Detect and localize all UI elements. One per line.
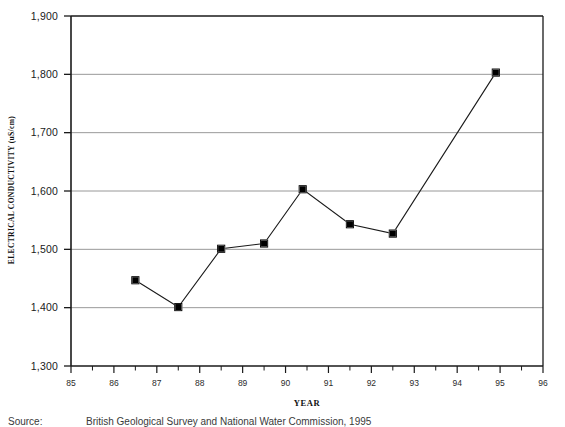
data-point-marker (492, 69, 499, 76)
y-tick-label: 1,700 (31, 126, 58, 138)
x-tick-label: 91 (324, 378, 334, 388)
x-tick-label: 86 (109, 378, 119, 388)
x-tick-label: 85 (66, 378, 76, 388)
chart-figure: 1,3001,4001,5001,6001,7001,8001,900 8586… (0, 0, 565, 427)
y-tick-label: 1,600 (31, 185, 58, 197)
x-axis-title: YEAR (294, 398, 321, 408)
data-point-marker (346, 221, 353, 228)
source-label: Source: (8, 416, 42, 427)
chart-background (0, 0, 565, 427)
x-tick-label: 87 (152, 378, 162, 388)
x-tick-label: 89 (238, 378, 248, 388)
line-chart: 1,3001,4001,5001,6001,7001,8001,900 8586… (0, 0, 565, 427)
y-axis-title: ELECTRICAL CONDUCTIVITY (uS/cm) (7, 116, 16, 264)
y-tick-label: 1,400 (31, 301, 58, 313)
x-tick-label: 93 (410, 378, 420, 388)
x-tick-label: 94 (452, 378, 462, 388)
y-tick-label: 1,300 (31, 360, 58, 372)
source-text: British Geological Survey and National W… (86, 416, 372, 427)
x-tick-label: 95 (495, 378, 505, 388)
data-point-marker (389, 230, 396, 237)
data-point-marker (299, 186, 306, 193)
x-tick-label: 92 (367, 378, 377, 388)
x-tick-label: 88 (195, 378, 205, 388)
x-tick-label: 96 (538, 378, 548, 388)
y-tick-label: 1,900 (31, 10, 58, 22)
x-tick-label: 90 (281, 378, 291, 388)
data-point-marker (218, 245, 225, 252)
data-point-marker (175, 303, 182, 310)
data-point-marker (132, 277, 139, 284)
data-point-marker (260, 240, 267, 247)
y-tick-label: 1,500 (31, 243, 58, 255)
y-tick-label: 1,800 (31, 68, 58, 80)
